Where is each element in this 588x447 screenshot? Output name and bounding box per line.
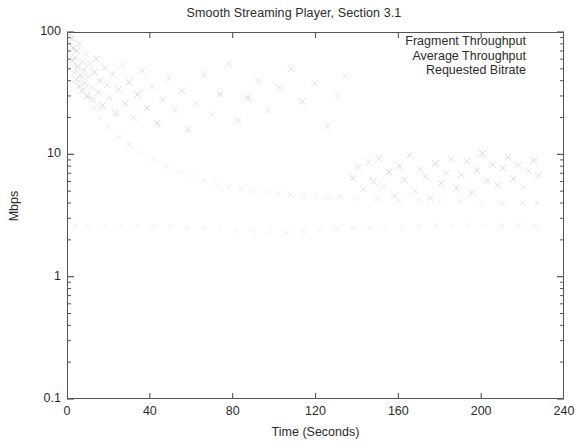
x-axis-title: Time (Seconds): [67, 425, 564, 439]
x-tick-label: 120: [286, 404, 346, 418]
legend-item-fragment-throughput: Fragment Throughput: [405, 34, 526, 49]
x-tick-label: 240: [534, 404, 588, 418]
y-tick-label: 100: [7, 24, 61, 38]
chart-legend: Fragment Throughput Average Throughput R…: [405, 34, 526, 78]
x-tick-label: 200: [451, 404, 511, 418]
x-tick-label: 80: [203, 404, 263, 418]
y-tick-label: 1: [7, 269, 61, 283]
chart-title: Smooth Streaming Player, Section 3.1: [0, 6, 588, 20]
legend-item-requested-bitrate: Requested Bitrate: [405, 63, 526, 78]
chart-figure: Smooth Streaming Player, Section 3.1 Mbp…: [0, 0, 588, 447]
y-axis-title: Mbps: [7, 166, 21, 246]
x-tick-label: 160: [368, 404, 428, 418]
legend-item-average-throughput: Average Throughput: [405, 49, 526, 64]
x-tick-label: 40: [120, 404, 180, 418]
plot-area: [67, 32, 564, 399]
x-tick-label: 0: [37, 404, 97, 418]
y-tick-label: 10: [7, 146, 61, 160]
y-tick-label: 0.1: [7, 391, 61, 405]
